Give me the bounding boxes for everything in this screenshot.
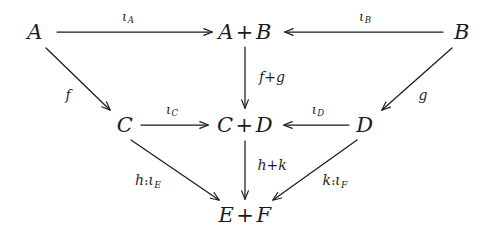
edge-label-iota-D-sub: D <box>317 108 324 118</box>
edge-label-f-plus-g-op: + <box>264 69 276 85</box>
node-B-text: B <box>454 20 470 44</box>
node-E-plus-F-op: + <box>234 203 256 227</box>
node-E-plus-F-left: E <box>218 203 234 227</box>
edge-label-f-plus-g-right: g <box>276 69 285 85</box>
node-A-plus-B-op: + <box>234 20 256 44</box>
edge-label-h-comp-iota-E-iota: ι <box>148 172 154 188</box>
edge-label-h-comp-iota-E-sub: E <box>154 179 161 190</box>
node-E-plus-F-right: F <box>256 203 271 227</box>
commutative-diagram: A A+B B C C+D D E+F ιA ιB f g f+g ιC ιD … <box>0 0 489 234</box>
edge-label-f: f <box>65 87 70 103</box>
node-C-plus-D-right: D <box>256 113 273 137</box>
edge-label-h-comp-iota-E-base: h <box>135 172 144 188</box>
edge-label-h-plus-k-op: + <box>266 157 278 173</box>
edge-label-iota-C-sub: C <box>172 108 179 118</box>
node-B: B <box>454 20 470 44</box>
edge-label-h-comp-iota-E: h⨾ιE <box>135 172 161 190</box>
node-A-plus-B-left: A <box>218 20 234 44</box>
node-C-plus-D-op: + <box>234 113 256 137</box>
edge-label-iota-C: ιC <box>166 102 178 118</box>
fatsemi-icon: ⨾ <box>144 173 148 189</box>
arrow-B-to-D <box>382 48 452 110</box>
edge-label-g-text: g <box>419 87 428 103</box>
node-C-text: C <box>117 113 134 137</box>
edge-label-k-comp-iota-F-sub: F <box>341 179 347 190</box>
arrow-C-to-EF <box>131 140 219 200</box>
edge-label-iota-A-sub: A <box>128 15 134 25</box>
edge-label-iota-C-base: ι <box>166 102 171 117</box>
arrow-A-to-C <box>46 48 110 110</box>
edge-label-iota-A-base: ι <box>122 9 127 24</box>
edge-label-k-comp-iota-F: k⨾ιF <box>323 172 348 190</box>
node-A: A <box>27 20 43 44</box>
edge-label-iota-D-base: ι <box>312 102 317 117</box>
edge-label-iota-A: ιA <box>122 9 134 25</box>
edge-label-iota-B: ιB <box>359 9 371 25</box>
edge-label-h-plus-k: h+k <box>257 157 286 173</box>
node-A-plus-B: A+B <box>218 20 272 44</box>
edge-label-iota-D: ιD <box>312 102 325 118</box>
edge-label-h-plus-k-left: h <box>257 157 266 173</box>
node-C-plus-D-left: C <box>217 113 234 137</box>
edge-label-g: g <box>419 87 428 103</box>
edge-label-iota-B-sub: B <box>365 15 371 25</box>
node-A-plus-B-right: B <box>256 20 272 44</box>
node-D-text: D <box>356 113 373 137</box>
node-C: C <box>117 113 134 137</box>
fatsemi-icon: ⨾ <box>331 173 335 189</box>
edge-label-h-plus-k-right: k <box>278 157 286 173</box>
node-D: D <box>356 113 373 137</box>
edge-label-iota-B-base: ι <box>359 9 364 24</box>
edge-label-f-text: f <box>65 87 70 103</box>
node-E-plus-F: E+F <box>218 203 271 227</box>
node-A-text: A <box>27 20 43 44</box>
node-C-plus-D: C+D <box>217 113 273 137</box>
edge-label-k-comp-iota-F-base: k <box>323 172 331 188</box>
edge-label-f-plus-g: f+g <box>259 69 285 85</box>
